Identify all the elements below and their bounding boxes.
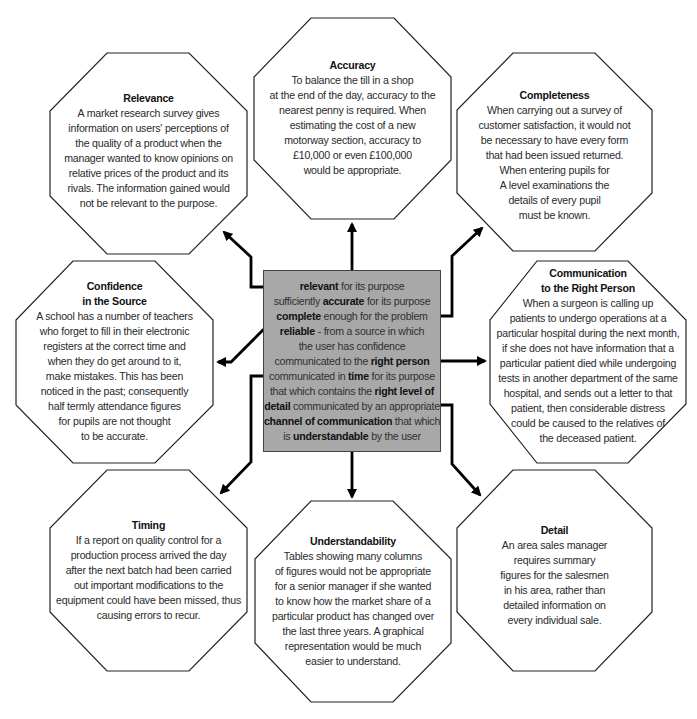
node-title: Accuracy [262, 58, 443, 73]
node-title: in the Source [22, 294, 207, 309]
node-text-line: production process arrived the day [55, 548, 242, 563]
central-characteristics-text: relevant for its purpose sufficiently ac… [263, 279, 441, 444]
arrow-to-completeness [436, 228, 482, 316]
center-line-accurate: sufficiently accurate for its purpose [263, 294, 441, 309]
node-text-line: customer satisfaction, it would not [462, 118, 647, 133]
center-line-channel: channel of communication that which [263, 414, 441, 429]
node-text-line: requires summary [462, 553, 647, 568]
node-text-line: to be accurate. [22, 429, 207, 444]
node-title: Communication [495, 266, 681, 281]
node-title: Detail [462, 523, 647, 538]
center-line-confidence: the user has confidence [263, 339, 441, 354]
node-text-line: figures for the salesmen [462, 568, 647, 583]
node-text-line: noticed in the past; consequently [22, 384, 207, 399]
node-text-line: details of every pupil [462, 193, 647, 208]
center-line-right-level: that which contains the right level of [263, 384, 441, 399]
node-text-line: An area sales manager [462, 538, 647, 553]
node-text-line: half termly attendance figures [22, 399, 207, 414]
center-line-reliable: reliable - from a source in which [263, 324, 441, 339]
node-text-line: when they do get around to it, [22, 354, 207, 369]
center-line-detail: detail communicated by an appropriate [263, 399, 441, 414]
node-text-line: in his area, rather than [462, 583, 647, 598]
node-text-line: not be relevant to the purpose. [55, 196, 242, 211]
node-text-line: When entering pupils for [462, 163, 647, 178]
node-text-line: the quality of a product when the [55, 136, 242, 151]
node-text-line: that had been issued returned. [462, 148, 647, 163]
node-text-line: registers at the correct time and [22, 339, 207, 354]
node-right-person: Communication to the Right Person When a… [495, 266, 681, 446]
node-text-line: at the end of the day, accuracy to the [262, 88, 443, 103]
node-text-line: must be known. [462, 208, 647, 223]
center-line-right-person: communicated to the right person [263, 354, 441, 369]
node-text-line: A level examinations the [462, 178, 647, 193]
node-text-line: particular patient died while undergoing [495, 356, 681, 371]
node-text-line: £10,000 or even £100,000 [262, 148, 443, 163]
node-detail: Detail An area sales manager requires su… [462, 523, 647, 628]
node-accuracy: Accuracy To balance the till in a shop a… [262, 58, 443, 178]
node-title: Understandability [260, 534, 446, 549]
node-timing: Timing If a report on quality control fo… [55, 518, 242, 623]
node-text-line: estimating the cost of a new [262, 118, 443, 133]
node-text-line: of figures would not be appropriate [260, 564, 446, 579]
center-line-time: communicated in time for its purpose [263, 369, 441, 384]
node-text-line: easier to understand. [260, 654, 446, 669]
node-text-line: after the next batch had been carried [55, 563, 242, 578]
node-text-line: who forget to fill in their electronic [22, 324, 207, 339]
node-text-line: make mistakes. This has been [22, 369, 207, 384]
node-text-line: particular hospital during the next mont… [495, 326, 681, 341]
node-confidence-in-source: Confidence in the Source A school has a … [22, 279, 207, 444]
node-text-line: could be caused to the relatives of [495, 416, 681, 431]
node-text-line: particular product has changed over [260, 609, 446, 624]
node-text-line: causing errors to recur. [55, 608, 242, 623]
node-text-line: patient, then considerable distress [495, 401, 681, 416]
node-text-line: detailed information on [462, 598, 647, 613]
node-title: to the Right Person [495, 281, 681, 296]
node-text-line: representation would be much [260, 639, 446, 654]
node-text-line: to know how the market share of a [260, 594, 446, 609]
node-text-line: If a report on quality control for a [55, 533, 242, 548]
node-text-line: When carrying out a survey of [462, 103, 647, 118]
node-text-line: the last three years. A graphical [260, 624, 446, 639]
center-line-understandable: is understandable by the user [263, 429, 441, 444]
node-text-line: information on users' perceptions of [55, 121, 242, 136]
node-text-line: tests in another department of the same [495, 371, 681, 386]
node-text-line: the deceased patient. [495, 431, 681, 446]
node-text-line: every individual sale. [462, 613, 647, 628]
node-text-line: Tables showing many columns [260, 549, 446, 564]
node-title: Completeness [462, 88, 647, 103]
node-understandability: Understandability Tables showing many co… [260, 534, 446, 669]
node-text-line: nearest penny is required. When [262, 103, 443, 118]
node-text-line: patients to undergo operations at a [495, 311, 681, 326]
node-text-line: hospital, and sends out a letter to that [495, 386, 681, 401]
node-text-line: motorway section, accuracy to [262, 133, 443, 148]
arrow-to-detail [437, 405, 480, 495]
node-text-line: out important modifications to the [55, 578, 242, 593]
node-text-line: for a senior manager if she wanted [260, 579, 446, 594]
node-text-line: if she does not have information that a [495, 341, 681, 356]
node-title: Relevance [55, 91, 242, 106]
node-text-line: When a surgeon is calling up [495, 296, 681, 311]
center-line-complete: complete enough for the problem [263, 309, 441, 324]
node-relevance: Relevance A market research survey gives… [55, 91, 242, 211]
node-text-line: manager wanted to know opinions on [55, 151, 242, 166]
node-text-line: would be appropriate. [262, 163, 443, 178]
node-text-line: for pupils are not thought [22, 414, 207, 429]
node-text-line: rivals. The information gained would [55, 181, 242, 196]
node-text-line: be necessary to have every form [462, 133, 647, 148]
node-title: Timing [55, 518, 242, 533]
node-text-line: A school has a number of teachers [22, 309, 207, 324]
center-line-relevant: relevant for its purpose [263, 279, 441, 294]
node-title: Confidence [22, 279, 207, 294]
node-text-line: relative prices of the product and its [55, 166, 242, 181]
node-text-line: To balance the till in a shop [262, 73, 443, 88]
node-text-line: A market research survey gives [55, 106, 242, 121]
node-completeness: Completeness When carrying out a survey … [462, 88, 647, 223]
node-text-line: equipment could have been missed, thus [55, 593, 242, 608]
